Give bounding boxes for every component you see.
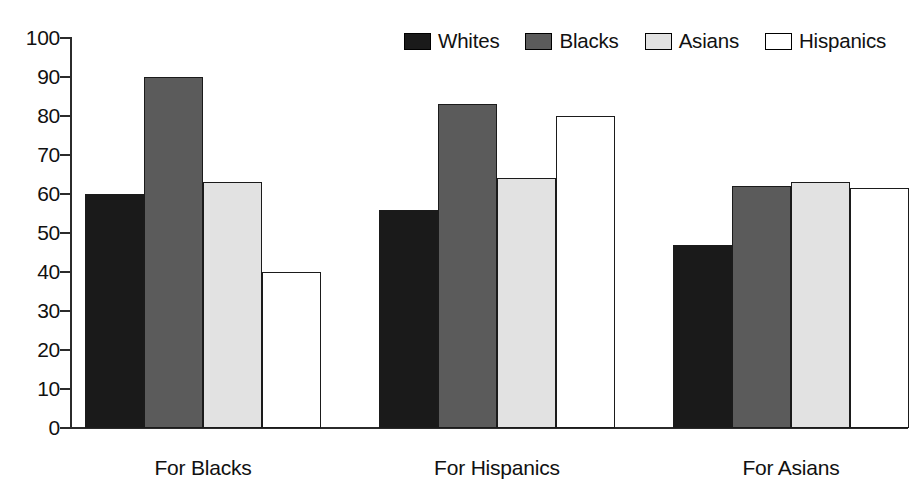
- x-axis-group-labels: For BlacksFor HispanicsFor Asians: [0, 450, 913, 490]
- bar-hispanics-for-hispanics: [556, 116, 615, 428]
- bar-whites-for-blacks: [85, 194, 144, 428]
- x-axis-group-label: For Hispanics: [379, 456, 615, 480]
- bar-whites-for-hispanics: [379, 210, 438, 428]
- bar-hispanics-for-asians: [850, 188, 909, 428]
- bar-whites-for-asians: [673, 245, 732, 428]
- bar-blacks-for-hispanics: [438, 104, 497, 428]
- plot-area: 0102030405060708090100: [0, 0, 913, 450]
- bar-blacks-for-asians: [732, 186, 791, 428]
- bar-hispanics-for-blacks: [262, 272, 321, 428]
- x-axis-group-label: For Blacks: [85, 456, 321, 480]
- bar-asians-for-hispanics: [497, 178, 556, 428]
- bar-blacks-for-blacks: [144, 77, 203, 428]
- bar-chart: WhitesBlacksAsiansHispanics 010203040506…: [0, 0, 913, 490]
- bars-layer: [0, 0, 913, 450]
- x-axis-group-label: For Asians: [673, 456, 909, 480]
- bar-asians-for-blacks: [203, 182, 262, 428]
- bar-asians-for-asians: [791, 182, 850, 428]
